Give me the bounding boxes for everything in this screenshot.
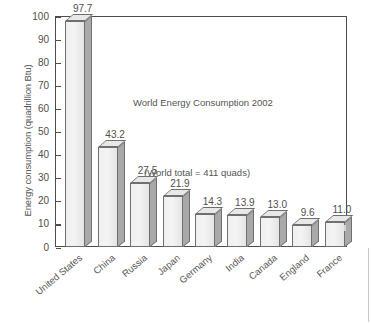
- bar-side-face: [118, 141, 125, 247]
- bar-value-label: 27.5: [138, 165, 157, 176]
- bar-value-label: 43.2: [105, 129, 124, 140]
- y-tick-label: 0: [43, 242, 49, 253]
- bar: 27.5: [130, 183, 150, 247]
- x-axis-labels: United StatesChinaRussiaJapanGermanyIndi…: [55, 247, 347, 324]
- y-tick-label: 60: [38, 103, 49, 114]
- bar-value-label: 9.6: [301, 207, 315, 218]
- y-tick-label: 40: [38, 149, 49, 160]
- bar-side-face: [183, 191, 190, 247]
- bar-side-face: [247, 209, 254, 247]
- bar-value-label: 11.0: [333, 204, 352, 215]
- y-axis-title: Energy consumption (quadrillion Btu): [22, 31, 33, 251]
- y-tick-label: 50: [38, 126, 49, 137]
- bar: 21.9: [163, 196, 183, 247]
- bar-front-face: [195, 214, 215, 247]
- chart-figure: Energy consumption (quadrillion Btu) 010…: [0, 0, 371, 324]
- bar-value-label: 14.3: [203, 196, 222, 207]
- y-tick-label: 20: [38, 195, 49, 206]
- bar: 11.0: [325, 222, 345, 247]
- bar-front-face: [325, 222, 345, 247]
- y-tick-label: 100: [32, 11, 49, 22]
- y-tick-label: 90: [38, 34, 49, 45]
- bar-front-face: [292, 225, 312, 247]
- bar-front-face: [65, 21, 85, 247]
- bar: 14.3: [195, 214, 215, 247]
- bar-front-face: [227, 215, 247, 247]
- bar: 9.6: [292, 225, 312, 247]
- y-tick-label: 10: [38, 218, 49, 229]
- bar-front-face: [163, 196, 183, 247]
- bar: 43.2: [98, 147, 118, 247]
- bar-value-label: 13.9: [235, 197, 254, 208]
- bar: 97.7: [65, 21, 85, 247]
- bar: 13.9: [227, 215, 247, 247]
- bar-value-label: 13.0: [268, 199, 287, 210]
- y-tick-label: 30: [38, 172, 49, 183]
- scan-edge-artifact: [368, 248, 369, 322]
- bar-front-face: [98, 147, 118, 247]
- bar-side-face: [150, 178, 157, 247]
- bar-side-face: [280, 211, 287, 247]
- bar: 13.0: [260, 217, 280, 247]
- bar-front-face: [260, 217, 280, 247]
- bar-side-face: [215, 208, 222, 247]
- bar-side-face: [85, 15, 92, 247]
- y-tick-label: 70: [38, 80, 49, 91]
- bar-series: 97.743.227.521.914.313.913.09.611.0: [55, 16, 347, 247]
- bar-value-label: 97.7: [73, 3, 92, 14]
- y-tick-label: 80: [38, 57, 49, 68]
- bar-front-face: [130, 183, 150, 247]
- bar-value-label: 21.9: [170, 178, 189, 189]
- scan-mark-artifact: [344, 225, 346, 231]
